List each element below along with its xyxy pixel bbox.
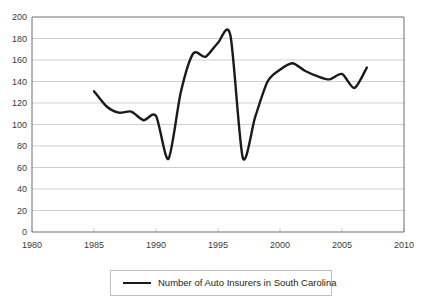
chart-legend: Number of Auto Insurers in South Carolin… xyxy=(110,270,332,296)
x-axis-tick-label: 1995 xyxy=(208,241,228,250)
legend-label: Number of Auto Insurers in South Carolin… xyxy=(158,278,336,288)
plot-area xyxy=(0,0,428,306)
y-axis-tick-label: 80 xyxy=(0,142,27,151)
y-axis-tick-label: 160 xyxy=(0,56,27,65)
gridlines xyxy=(32,39,404,211)
y-axis-tick-label: 20 xyxy=(0,206,27,215)
y-axis-tick-label: 140 xyxy=(0,77,27,86)
y-axis-tick-label: 200 xyxy=(0,13,27,22)
y-axis-tick-label: 40 xyxy=(0,185,27,194)
legend-line-swatch xyxy=(123,282,151,284)
y-axis-tick-label: 100 xyxy=(0,120,27,129)
chart-figure: 020406080100120140160180200 198019851990… xyxy=(0,0,428,306)
data-series-line xyxy=(94,30,367,160)
y-axis-tick-label: 0 xyxy=(0,228,27,237)
x-axis-tick-label: 1990 xyxy=(146,241,166,250)
x-axis-tick-label: 2005 xyxy=(332,241,352,250)
y-axis-tick-label: 60 xyxy=(0,163,27,172)
x-axis-tick-label: 1980 xyxy=(22,241,42,250)
y-axis-tick-label: 180 xyxy=(0,34,27,43)
x-axis-tick-label: 2010 xyxy=(394,241,414,250)
x-axis-tick-label: 2000 xyxy=(270,241,290,250)
x-axis-tick-label: 1985 xyxy=(84,241,104,250)
y-axis-tick-label: 120 xyxy=(0,99,27,108)
